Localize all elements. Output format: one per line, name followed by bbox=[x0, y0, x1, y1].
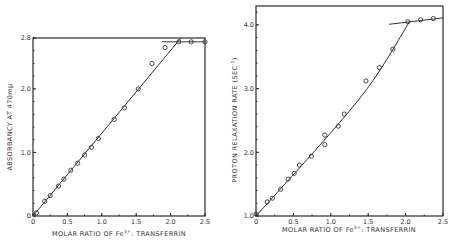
left-data-points bbox=[34, 40, 207, 215]
x-tick-label: 1.0 bbox=[97, 218, 107, 226]
left-chart: 00.51.01.52.02.5 01.02.02.8 MOLAR RATIO … bbox=[6, 34, 210, 238]
data-point bbox=[150, 61, 154, 65]
x-tick-label: 2.0 bbox=[400, 218, 410, 226]
y-tick-label: 1.0 bbox=[244, 212, 254, 220]
data-point bbox=[297, 163, 301, 167]
left-x-axis-label: MOLAR RATIO OF Fe3+: TRANSFERRIN bbox=[52, 229, 186, 238]
y-tick-label: 2.0 bbox=[244, 149, 254, 157]
data-point bbox=[323, 143, 327, 147]
right-x-ticks: 00.51.01.52.02.5 bbox=[254, 213, 448, 226]
linear-fit-line bbox=[33, 38, 181, 216]
y-tick-label: 1.0 bbox=[21, 149, 31, 157]
x-tick-label: 2.0 bbox=[165, 218, 175, 226]
data-point bbox=[364, 79, 368, 83]
data-point bbox=[323, 133, 327, 137]
right-chart: 00.51.01.52.02.5 1.02.03.04.0 MOLAR RATI… bbox=[230, 6, 448, 234]
data-point bbox=[377, 65, 381, 69]
left-y-axis-label: ABSORBANCY AT 470mμ bbox=[6, 83, 14, 170]
x-tick-label: 2.5 bbox=[200, 218, 210, 226]
x-tick-label: 0 bbox=[254, 218, 258, 226]
left-x-ticks: 00.51.01.52.02.5 bbox=[31, 213, 210, 226]
x-tick-label: 1.5 bbox=[363, 218, 373, 226]
y-tick-label: 2.0 bbox=[21, 85, 31, 93]
right-x-axis-label: MOLAR RATIO OF Fe3+: TRANSFERRIN bbox=[282, 225, 416, 234]
x-tick-label: 1.5 bbox=[131, 218, 141, 226]
right-y-ticks: 1.02.03.04.0 bbox=[244, 12, 259, 220]
right-fit-lines bbox=[256, 18, 443, 216]
left-plot-frame bbox=[33, 38, 205, 216]
y-tick-label: 0 bbox=[27, 212, 31, 220]
data-point bbox=[163, 45, 167, 49]
right-y-axis-label: PROTON RELAXATION RATE (SEC-1) bbox=[230, 57, 239, 182]
right-data-points bbox=[254, 16, 435, 216]
data-point bbox=[342, 112, 346, 116]
figure: 00.51.01.52.02.5 01.02.02.8 MOLAR RATIO … bbox=[0, 0, 452, 246]
fit-curve-line bbox=[256, 22, 409, 216]
x-tick-label: 0.5 bbox=[62, 218, 72, 226]
x-tick-label: 0.5 bbox=[288, 218, 298, 226]
left-fit-lines bbox=[33, 38, 205, 216]
y-tick-label: 2.8 bbox=[21, 34, 31, 42]
x-tick-label: 0 bbox=[31, 218, 35, 226]
x-tick-label: 2.5 bbox=[438, 218, 448, 226]
y-tick-label: 3.0 bbox=[244, 85, 254, 93]
left-y-ticks: 01.02.02.8 bbox=[21, 34, 36, 220]
y-tick-label: 4.0 bbox=[244, 21, 254, 29]
data-point bbox=[418, 18, 422, 22]
x-tick-label: 1.0 bbox=[326, 218, 336, 226]
